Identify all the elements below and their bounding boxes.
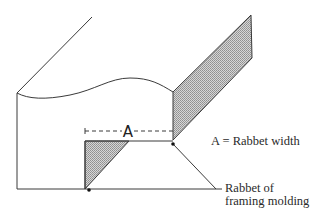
frame-top-left-edge — [17, 17, 92, 93]
rabbet-corner-dot-lower — [87, 188, 91, 192]
callout-label-line1: Rabbet of — [225, 181, 275, 195]
callout-leader-line — [173, 144, 216, 189]
molding-shaded-face-lower — [85, 141, 129, 189]
rabbet-diagram: A A = Rabbet width Rabbet of framing mol… — [0, 0, 324, 214]
molding-shaded-face-upper — [173, 15, 252, 140]
legend-rabbet-width: A = Rabbet width — [211, 134, 300, 148]
wavy-cut-edge — [17, 78, 173, 98]
rabbet-corner-dot-upper — [171, 142, 175, 146]
callout-label-line2: framing molding — [225, 194, 310, 208]
dimension-label-a: A — [123, 123, 134, 141]
